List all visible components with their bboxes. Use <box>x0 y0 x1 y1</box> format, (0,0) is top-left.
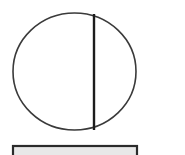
drawing-canvas <box>0 0 185 155</box>
figure-svg <box>0 0 185 155</box>
canvas-background <box>0 0 185 155</box>
bottom-bar-rectangle <box>13 146 137 155</box>
